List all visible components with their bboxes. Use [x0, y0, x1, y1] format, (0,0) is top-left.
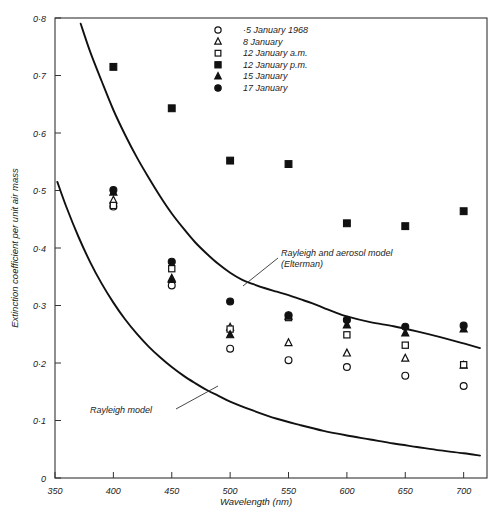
- y-tick-label: 0·3: [33, 301, 46, 311]
- marker-filled-circle: [343, 316, 350, 323]
- x-tick-label: 400: [106, 486, 121, 496]
- legend-item-label: 12 January p.m.: [243, 60, 308, 70]
- marker-open-circle: [343, 364, 350, 371]
- marker-filled-square: [227, 157, 234, 164]
- x-axis-title: Wavelength (nm): [220, 496, 292, 507]
- marker-filled-circle: [215, 85, 221, 91]
- y-tick-label: 0·2: [33, 359, 46, 369]
- legend-item-label: ·5 January 1968: [243, 25, 308, 35]
- x-tick-label: 650: [398, 486, 413, 496]
- marker-open-circle: [285, 357, 292, 364]
- y-tick-label: 0·8: [33, 14, 46, 24]
- aerosol-annotation-text: Rayleigh and aerosol model: [281, 248, 394, 258]
- figure-container: 35040045050055060065070000·10·20·30·40·5…: [0, 0, 497, 520]
- x-tick-label: 350: [47, 486, 62, 496]
- marker-filled-circle: [285, 312, 292, 319]
- marker-open-square: [110, 202, 116, 208]
- extinction-coefficient-scatter-chart: 35040045050055060065070000·10·20·30·40·5…: [0, 0, 497, 520]
- x-tick-label: 700: [456, 486, 471, 496]
- marker-open-circle: [227, 345, 234, 352]
- marker-filled-circle: [402, 323, 409, 330]
- marker-filled-circle: [460, 322, 467, 329]
- marker-filled-circle: [168, 258, 175, 265]
- marker-open-square: [344, 332, 350, 338]
- marker-filled-square: [460, 208, 467, 215]
- y-tick-label: 0·5: [33, 186, 47, 196]
- marker-open-square: [169, 266, 175, 272]
- marker-open-circle: [402, 372, 409, 379]
- y-tick-label: 0·1: [33, 416, 46, 426]
- legend-item-label: 12 January a.m.: [243, 48, 308, 58]
- marker-filled-circle: [227, 298, 234, 305]
- marker-filled-square: [168, 105, 175, 112]
- y-axis-title: Extinction coefficient per unit air mass: [9, 168, 20, 328]
- legend-item-label: 17 January: [243, 83, 288, 93]
- marker-open-circle: [460, 383, 467, 390]
- marker-filled-square: [285, 161, 292, 168]
- y-tick-label: 0·4: [33, 244, 46, 254]
- marker-filled-square: [110, 63, 117, 70]
- x-tick-label: 550: [281, 486, 296, 496]
- rayleigh-annotation-text: Rayleigh model: [90, 405, 153, 415]
- legend-item-label: 8 January: [243, 37, 283, 47]
- marker-filled-circle: [110, 186, 117, 193]
- x-tick-label: 450: [164, 486, 179, 496]
- marker-filled-square: [402, 223, 409, 230]
- marker-open-square: [461, 362, 467, 368]
- y-tick-label: 0·7: [33, 71, 47, 81]
- marker-open-circle: [215, 27, 221, 33]
- marker-open-square: [402, 342, 408, 348]
- legend-item-label: 15 January: [243, 71, 288, 81]
- marker-open-square: [215, 50, 221, 56]
- marker-filled-square: [215, 62, 221, 68]
- x-tick-label: 600: [339, 486, 354, 496]
- y-tick-label: 0: [41, 474, 46, 484]
- marker-filled-square: [343, 220, 350, 227]
- y-tick-label: 0·6: [33, 129, 46, 139]
- x-tick-label: 500: [223, 486, 238, 496]
- aerosol-annotation-subtext: (Elterman): [281, 259, 323, 269]
